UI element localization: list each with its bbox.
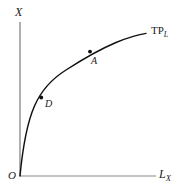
total-product-curve-figure: X O LX TPL A D (0, 0, 185, 192)
point-d-marker (39, 96, 43, 100)
origin-label: O (8, 170, 16, 181)
total-product-curve (20, 33, 146, 176)
curve-label-subscript: L (164, 30, 168, 39)
point-a-label: A (91, 56, 97, 66)
x-axis-label-subscript: X (166, 173, 171, 183)
curve-label-base: TP (151, 24, 164, 36)
curve-label: TPL (151, 25, 168, 36)
point-a-marker (88, 50, 92, 54)
y-axis-label: X (15, 6, 22, 18)
point-d-label: D (45, 99, 52, 109)
x-axis-label: LX (159, 168, 171, 180)
x-axis-label-base: L (159, 167, 166, 181)
